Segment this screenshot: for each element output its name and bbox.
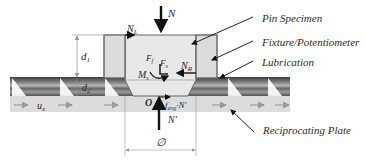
svg-text:O: O [145,97,152,108]
label-pin-specimen: Pin Specimen [261,12,323,24]
label-reciprocating-plate: Reciprocating Plate [262,124,351,136]
dimension-d1: d1 [77,36,90,77]
fixture-right [196,35,217,78]
svg-text:N': N' [167,114,178,125]
label-fixture: Fixture/Potentiometer [261,36,360,48]
label-lubrication: Lubrication [261,56,314,68]
svg-text:d1: d1 [81,50,90,64]
svg-text:∅: ∅ [156,136,166,148]
svg-text:NL: NL [126,23,138,36]
left-reaction-arrow: NL [125,23,138,36]
fixture-left [104,35,125,78]
contact-forces: O N' favg·N' [145,97,187,130]
tribometer-diagram: d1 d2 ux N NL NR Ff Fs Ms O N' favg·N' [0,0,366,162]
svg-text:N: N [167,7,176,19]
normal-load-arrow: N [161,6,176,31]
